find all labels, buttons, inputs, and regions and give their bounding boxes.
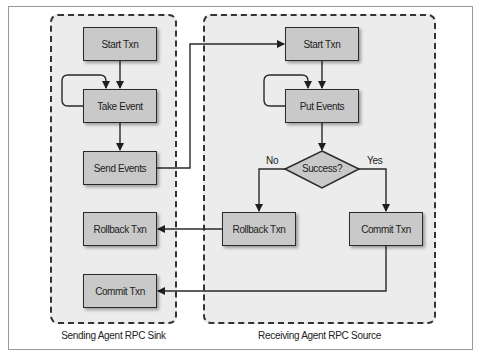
edge-label-yes: Yes	[367, 155, 382, 166]
node-sink-rollback-txn: Rollback Txn	[83, 212, 157, 246]
panel-caption-sink: Sending Agent RPC Sink	[50, 330, 177, 341]
node-sink-start-txn: Start Txn	[83, 27, 157, 61]
edge-decision-yes	[359, 169, 386, 211]
node-label: Start Txn	[304, 39, 341, 50]
node-source-commit-txn: Commit Txn	[349, 212, 423, 246]
connector-lines	[0, 0, 480, 357]
edge-src-commit-to-sink-commit	[158, 246, 386, 291]
node-source-put-events: Put Events	[285, 89, 359, 123]
edge-label-no: No	[266, 155, 278, 166]
node-label: Rollback Txn	[233, 224, 286, 235]
node-sink-take-event: Take Event	[83, 89, 157, 123]
node-sink-commit-txn: Commit Txn	[83, 274, 157, 308]
decision-label: Success?	[285, 163, 359, 174]
node-label: Rollback Txn	[94, 224, 147, 235]
node-label: Start Txn	[102, 39, 139, 50]
node-label: Send Events	[94, 163, 146, 174]
edge-decision-no	[259, 169, 285, 211]
node-source-rollback-txn: Rollback Txn	[222, 212, 296, 246]
edge-send-to-source-start	[157, 44, 284, 168]
node-label: Take Event	[97, 101, 142, 112]
node-source-start-txn: Start Txn	[285, 27, 359, 61]
node-label: Put Events	[300, 101, 344, 112]
node-sink-send-events: Send Events	[83, 151, 157, 185]
panel-caption-source: Receiving Agent RPC Source	[203, 330, 436, 341]
node-label: Commit Txn	[361, 224, 411, 235]
node-label: Commit Txn	[95, 286, 145, 297]
